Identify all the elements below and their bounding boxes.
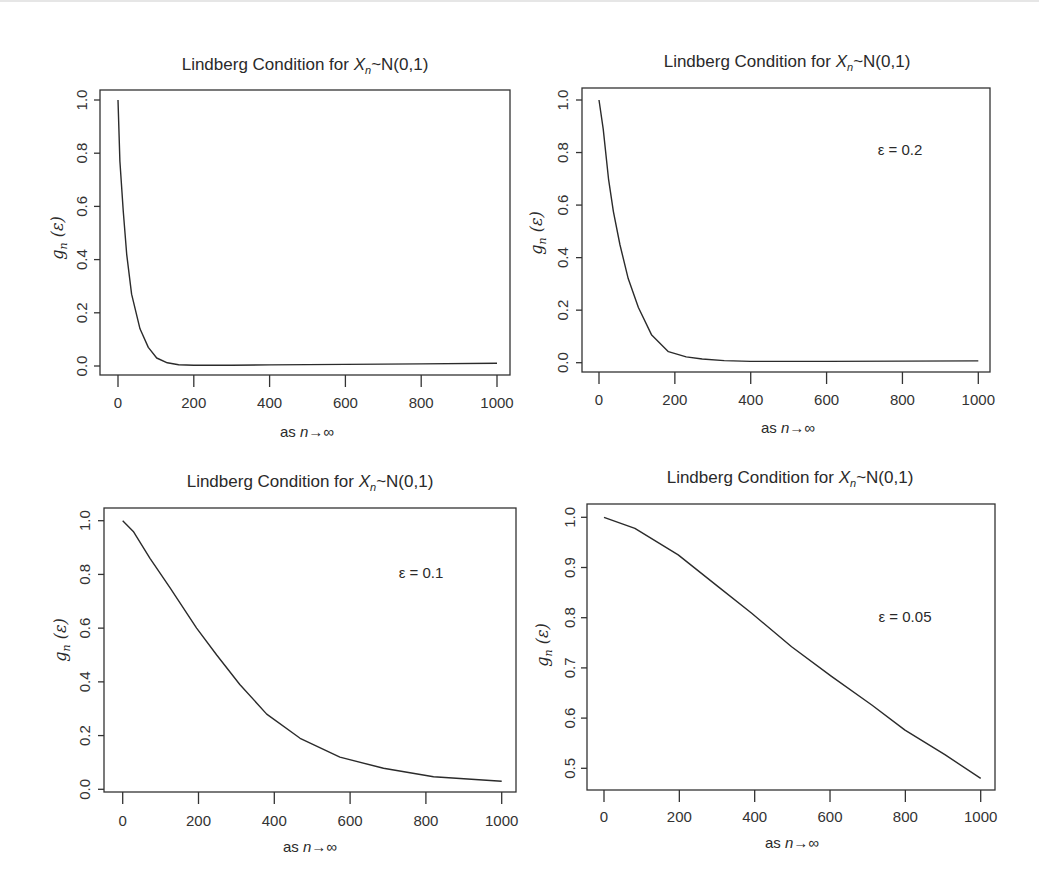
y-tick-label: 0.8 bbox=[554, 142, 571, 163]
x-tick-label: 600 bbox=[818, 808, 843, 825]
data-line bbox=[118, 100, 497, 365]
y-tick-label: 0.4 bbox=[73, 249, 90, 270]
y-tick-label: 0.4 bbox=[554, 247, 571, 268]
y-tick-label: 0.6 bbox=[554, 195, 571, 216]
y-tick-label: 1.0 bbox=[554, 90, 571, 111]
y-tick-label: 0.5 bbox=[561, 758, 578, 779]
y-axis: 0.00.20.40.60.81.0 bbox=[554, 90, 582, 374]
data-line bbox=[604, 517, 981, 778]
epsilon-annotation: ε = 0.05 bbox=[879, 608, 932, 625]
x-axis-label: as n→∞ bbox=[280, 423, 334, 440]
x-tick-label: 1000 bbox=[480, 394, 513, 411]
plot-frame bbox=[582, 88, 990, 372]
x-tick-label: 1000 bbox=[962, 391, 995, 408]
x-axis: 02004006008001000 bbox=[119, 792, 519, 829]
panel-bottom-right: Lindberg Condition for Xn~N(0,1) 0200400… bbox=[533, 468, 997, 851]
y-tick-label: 0.4 bbox=[76, 671, 93, 692]
epsilon-annotation: ε = 0.2 bbox=[878, 141, 923, 158]
x-tick-label: 800 bbox=[413, 812, 438, 829]
data-line bbox=[123, 521, 502, 782]
x-axis: 02004006008001000 bbox=[114, 375, 514, 411]
chart-title: Lindberg Condition for Xn~N(0,1) bbox=[182, 55, 429, 76]
x-axis: 02004006008001000 bbox=[595, 372, 995, 408]
x-tick-label: 200 bbox=[662, 391, 687, 408]
y-tick-label: 0.0 bbox=[73, 356, 90, 377]
x-tick-label: 200 bbox=[186, 812, 211, 829]
x-axis: 02004006008001000 bbox=[600, 790, 998, 825]
x-tick-label: 200 bbox=[667, 808, 692, 825]
x-tick-label: 800 bbox=[893, 808, 918, 825]
chart-title: Lindberg Condition for Xn~N(0,1) bbox=[187, 472, 434, 493]
x-axis-label: as n→∞ bbox=[765, 834, 819, 851]
y-tick-label: 0.6 bbox=[76, 618, 93, 639]
x-tick-label: 400 bbox=[257, 394, 282, 411]
y-tick-label: 0.7 bbox=[561, 657, 578, 678]
x-tick-label: 800 bbox=[890, 391, 915, 408]
y-tick-label: 1.0 bbox=[73, 90, 90, 111]
y-tick-label: 0.2 bbox=[76, 725, 93, 746]
x-tick-label: 0 bbox=[119, 812, 127, 829]
y-tick-label: 0.0 bbox=[76, 779, 93, 800]
y-tick-label: 0.8 bbox=[561, 607, 578, 628]
y-axis: 0.50.60.70.80.91.0 bbox=[561, 507, 587, 779]
panel-bottom-left: Lindberg Condition for Xn~N(0,1) 0200400… bbox=[51, 472, 518, 855]
x-tick-label: 400 bbox=[742, 808, 767, 825]
y-axis-label: gn (ε) bbox=[527, 211, 549, 255]
figure-canvas: Lindberg Condition for Xn~N(0,1) 0200400… bbox=[0, 0, 1039, 896]
x-tick-label: 400 bbox=[262, 812, 287, 829]
x-tick-label: 600 bbox=[338, 812, 363, 829]
x-axis-label: as n→∞ bbox=[761, 419, 815, 436]
x-tick-label: 800 bbox=[409, 394, 434, 411]
chart-title: Lindberg Condition for Xn~N(0,1) bbox=[667, 468, 914, 489]
y-axis: 0.00.20.40.60.81.0 bbox=[76, 510, 104, 799]
chart-title: Lindberg Condition for Xn~N(0,1) bbox=[664, 52, 911, 73]
y-tick-label: 1.0 bbox=[76, 510, 93, 531]
y-tick-label: 1.0 bbox=[561, 507, 578, 528]
y-tick-label: 0.9 bbox=[561, 557, 578, 578]
x-tick-label: 1000 bbox=[964, 808, 997, 825]
x-axis-label: as n→∞ bbox=[283, 838, 337, 855]
panel-top-left: Lindberg Condition for Xn~N(0,1) 0200400… bbox=[48, 55, 514, 440]
x-tick-label: 0 bbox=[595, 391, 603, 408]
plot-frame bbox=[100, 90, 510, 375]
y-tick-label: 0.2 bbox=[73, 302, 90, 323]
x-tick-label: 600 bbox=[814, 391, 839, 408]
y-tick-label: 0.6 bbox=[561, 708, 578, 729]
x-tick-label: 0 bbox=[600, 808, 608, 825]
y-tick-label: 0.2 bbox=[554, 300, 571, 321]
x-tick-label: 1000 bbox=[485, 812, 518, 829]
y-axis-label: gn (ε) bbox=[533, 623, 555, 667]
epsilon-annotation: ε = 0.1 bbox=[399, 564, 444, 581]
data-line bbox=[599, 100, 978, 361]
y-axis-label: gn (ε) bbox=[51, 618, 73, 662]
y-axis-label: gn (ε) bbox=[48, 216, 70, 260]
y-tick-label: 0.8 bbox=[73, 143, 90, 164]
y-axis: 0.00.20.40.60.81.0 bbox=[73, 90, 100, 377]
y-tick-label: 0.6 bbox=[73, 196, 90, 217]
x-tick-label: 200 bbox=[181, 394, 206, 411]
panel-top-right: Lindberg Condition for Xn~N(0,1) 0200400… bbox=[527, 52, 995, 436]
y-tick-label: 0.0 bbox=[554, 352, 571, 373]
x-tick-label: 600 bbox=[333, 394, 358, 411]
x-tick-label: 0 bbox=[114, 394, 122, 411]
y-tick-label: 0.8 bbox=[76, 564, 93, 585]
plot-frame bbox=[104, 508, 516, 792]
x-tick-label: 400 bbox=[738, 391, 763, 408]
